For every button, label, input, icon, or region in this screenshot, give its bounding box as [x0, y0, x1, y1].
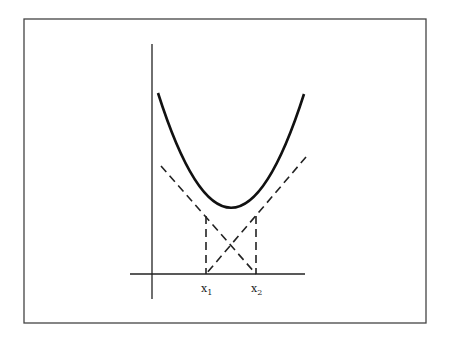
frame-border: [24, 19, 426, 323]
label-x1: x1: [201, 282, 212, 297]
tangent-line-left: [161, 166, 256, 274]
diagram: x1 x2: [0, 0, 449, 340]
parabola-curve: [158, 93, 304, 208]
label-x2: x2: [251, 282, 262, 297]
